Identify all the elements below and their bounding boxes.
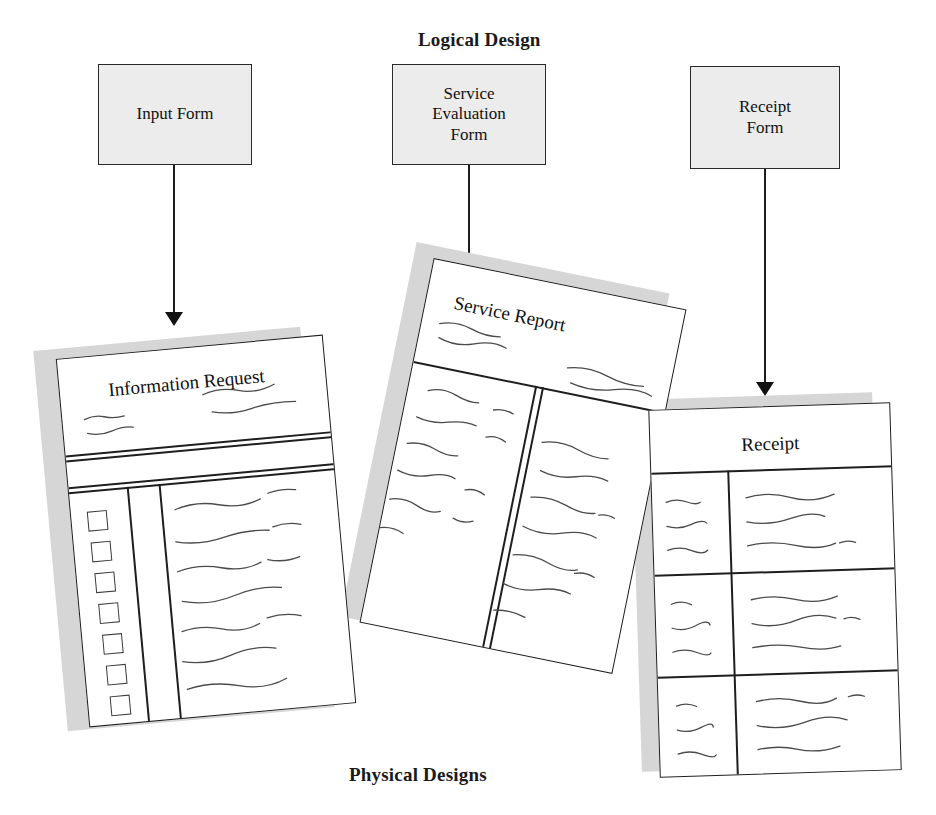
checkbox[interactable] (94, 571, 116, 593)
logical-box-input-form-label: Input Form (131, 104, 220, 124)
column-divider-1 (127, 487, 150, 723)
logical-box-receipt-form-label: ReceiptForm (733, 97, 797, 137)
logical-design-label: Logical Design (418, 29, 541, 51)
physical-document-service-report[interactable]: Service Report (348, 258, 648, 708)
physical-designs-label: Physical Designs (349, 764, 487, 786)
grid-column-rule (727, 470, 738, 776)
checkbox[interactable] (98, 602, 120, 624)
checkbox[interactable] (102, 633, 124, 655)
grid-row-rule-2 (658, 669, 900, 678)
header-rule-upper (66, 431, 333, 457)
physical-document-receipt[interactable]: Receipt (628, 392, 928, 792)
arrow-receipt-form-to-receipt (756, 169, 774, 396)
checkbox[interactable] (106, 664, 128, 686)
document-title-information-request: Information Request (56, 360, 320, 406)
checkbox[interactable] (110, 695, 132, 717)
diagram-canvas: Logical Design Physical Designs Input Fo… (0, 0, 936, 815)
column-divider-1 (482, 386, 537, 649)
column-divider-2 (489, 387, 544, 650)
document-title-receipt: Receipt (650, 429, 891, 459)
checkbox[interactable] (91, 541, 113, 563)
physical-document-information-request[interactable]: Information Request (48, 322, 348, 722)
logical-box-receipt-form[interactable]: ReceiptForm (690, 66, 840, 169)
arrow-input-to-information-request (165, 165, 183, 326)
logical-box-service-evaluation-form[interactable]: ServiceEvaluationForm (392, 64, 546, 165)
arrow-shaft (764, 169, 766, 383)
squiggle-text-lines (649, 403, 901, 777)
header-rule (413, 361, 666, 414)
paper-sheet: Information Request (56, 335, 356, 728)
checkbox[interactable] (87, 510, 109, 532)
logical-box-service-evaluation-form-label: ServiceEvaluationForm (426, 84, 512, 144)
logical-box-input-form[interactable]: Input Form (98, 64, 252, 165)
body-top-rule (68, 463, 335, 489)
header-rule-lower (66, 436, 333, 462)
arrow-shaft (173, 165, 175, 313)
body-top-rule-2 (69, 468, 336, 494)
column-divider-2 (159, 484, 182, 720)
title-band-rule (651, 465, 893, 474)
arrow-shaft (468, 165, 470, 259)
paper-sheet: Receipt (648, 402, 901, 777)
document-title-service-report: Service Report (452, 292, 568, 336)
grid-row-rule-1 (654, 567, 896, 576)
